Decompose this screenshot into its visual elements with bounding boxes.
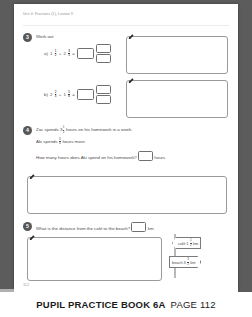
question-5-answer-box[interactable] <box>131 222 146 232</box>
part-b-operator: + <box>59 92 62 97</box>
signpost-sign-beach: beach 335 km <box>169 256 201 268</box>
working-box-4[interactable] <box>27 176 227 214</box>
question-5-number: 5 <box>23 222 32 231</box>
viewer-screen: Unit 4: Fractions (1), Lesson 9 3 Work o… <box>0 0 252 317</box>
q4-l2-post: hours more. <box>62 139 85 144</box>
pencil-icon <box>25 173 35 183</box>
question-4-answer-box[interactable] <box>138 151 153 161</box>
pencil-icon <box>124 77 134 87</box>
signpost-sign-cafe: café 112 km <box>172 237 201 249</box>
q4-l1-fraction: 12 <box>63 126 65 133</box>
question-5-prompt-row: What is the distance from the café to th… <box>36 222 231 232</box>
sign-cafe-unit: km <box>193 241 198 246</box>
part-b-answer-denominator-box[interactable] <box>96 95 111 104</box>
sign-beach-whole: 3 <box>184 260 186 265</box>
footer-page-label: PAGE 112 <box>171 299 216 310</box>
footer-bar: PUPIL PRACTICE BOOK 6A PAGE 112 <box>0 292 252 317</box>
working-box-5[interactable] <box>27 237 162 281</box>
working-box-3a[interactable] <box>126 36 228 74</box>
part-a-equals: = <box>72 51 75 56</box>
question-4-line-1: Zac spends 312 hours on his homework in … <box>36 126 231 134</box>
part-b-term2-whole: 1 <box>63 92 65 97</box>
sign-cafe-whole: 1 <box>186 241 188 246</box>
part-a-label: a) <box>44 51 48 56</box>
part-b-term2-fraction: 5 6 <box>68 91 70 98</box>
signpost-illustration: café 112 km beach 335 km <box>166 234 232 282</box>
question-4-number: 4 <box>23 126 32 135</box>
part-b-term1-fraction: 2 3 <box>55 91 57 98</box>
part-b-term1-whole: 2 <box>50 92 52 97</box>
sign-cafe-fraction: 12 <box>190 239 192 246</box>
q4-l2-fraction: 34 <box>59 138 61 145</box>
question-5-prompt: What is the distance from the café to th… <box>36 226 130 231</box>
pencil-icon <box>124 33 134 43</box>
q4-l2-pre: Aki spends <box>36 139 57 144</box>
part-b-answer-numerator-box[interactable] <box>96 85 111 94</box>
part-a-term1-fraction: 1 2 <box>55 50 57 57</box>
sign-beach-unit: km <box>190 260 195 265</box>
part-b-answer-fraction-boxes <box>96 85 111 104</box>
part-b-answer-whole-box[interactable] <box>77 89 94 100</box>
sign-beach-fraction: 35 <box>187 258 189 265</box>
workbook-page: Unit 4: Fractions (1), Lesson 9 3 Work o… <box>14 4 238 292</box>
question-4-unit: hours <box>154 155 165 160</box>
footer-title: PUPIL PRACTICE BOOK 6A <box>36 299 165 310</box>
part-a-answer-denominator-box[interactable] <box>96 54 111 63</box>
part-a-operator: + <box>59 51 62 56</box>
working-box-3b[interactable] <box>126 80 228 118</box>
question-3-number: 3 <box>23 33 32 42</box>
question-4-line-3: How many hours does Aki spend on his hom… <box>36 151 231 161</box>
part-b-equals: = <box>72 92 75 97</box>
question-5-unit: km <box>148 226 154 231</box>
pencil-icon <box>25 234 35 244</box>
header-divider <box>23 25 229 26</box>
sign-cafe-label: café <box>178 241 185 246</box>
q4-final-prompt: How many hours does Aki spend on his hom… <box>36 155 137 160</box>
page-header-label: Unit 4: Fractions (1), Lesson 9 <box>23 12 143 16</box>
sign-beach-label: beach <box>172 260 183 265</box>
part-a-answer-numerator-box[interactable] <box>96 44 111 53</box>
page-number: 112 <box>23 283 29 287</box>
q4-l1-pre: Zac spends <box>36 127 59 132</box>
q4-l1-post: hours on his homework in a week. <box>66 127 132 132</box>
part-b-label: b) <box>44 92 48 97</box>
question-4-line-2: Aki spends 34 hours more. <box>36 138 231 146</box>
part-a-term2-whole: 2 <box>63 51 65 56</box>
slide-frame: Unit 4: Fractions (1), Lesson 9 3 Work o… <box>0 0 252 317</box>
part-a-term2-fraction: 3 5 <box>68 50 70 57</box>
part-a-answer-fraction-boxes <box>96 44 111 63</box>
part-a-answer-whole-box[interactable] <box>77 48 94 59</box>
part-a-term1-whole: 1 <box>50 51 52 56</box>
